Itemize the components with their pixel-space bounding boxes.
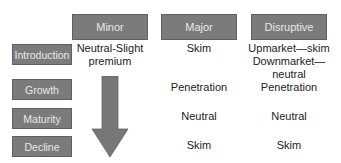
row-header-maturity: Maturity [12, 108, 72, 129]
cell-growth-disruptive: Penetration [251, 81, 327, 94]
cell-maturity-disruptive: Neutral [251, 110, 327, 123]
cell-text-line2: premium [72, 55, 148, 68]
column-header-minor: Minor [72, 14, 148, 40]
cell-decline-major: Skim [161, 139, 237, 152]
down-arrow-icon [92, 76, 129, 158]
cell-text-line2: Downmarket—neutral [236, 55, 341, 81]
cell-introduction-minor: Neutral-Slight premium [72, 42, 148, 68]
cell-maturity-major: Neutral [161, 110, 237, 123]
cell-text-line1: Neutral-Slight [72, 42, 148, 55]
cell-introduction-major: Skim [161, 42, 237, 55]
row-header-growth: Growth [12, 79, 72, 100]
cell-decline-disruptive: Skim [251, 139, 327, 152]
cell-text-line1: Upmarket—skim [236, 42, 341, 55]
column-header-major: Major [161, 14, 237, 40]
cell-introduction-disruptive: Upmarket—skim Downmarket—neutral [236, 42, 341, 81]
row-header-introduction: Introduction [12, 44, 72, 65]
row-header-decline: Decline [12, 136, 72, 157]
cell-growth-major: Penetration [161, 81, 237, 94]
column-header-disruptive: Disruptive [251, 14, 327, 40]
